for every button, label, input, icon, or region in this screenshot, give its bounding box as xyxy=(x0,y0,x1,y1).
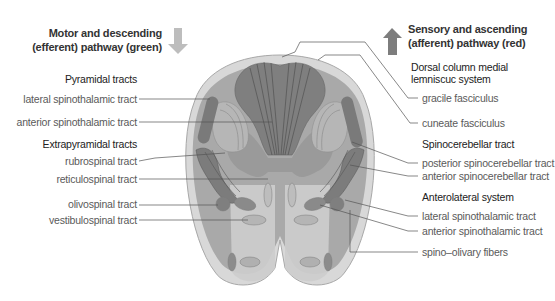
sensory-title-line1: Sensory and ascending xyxy=(408,22,527,36)
label-vestibulospinal: vestibulospinal tract xyxy=(49,214,137,226)
up-arrow-icon xyxy=(383,28,402,55)
label-cuneate-fasciculus: cuneate fasciculus xyxy=(422,117,505,129)
sensory-title-line2: (afferent) pathway (red) xyxy=(408,36,527,50)
extrapyramidal-tracts-heading: Extrapyramidal tracts xyxy=(43,138,137,150)
dorsal-column-heading-line2: lemniscuc system xyxy=(411,73,508,85)
motor-title-line2: (efferent) pathway (green) xyxy=(32,40,162,54)
left-label-lateral-spinothalamic: lateral spinothalamic tract xyxy=(23,93,137,105)
label-spino-olivary-fibers: spino–olivary fibers xyxy=(422,246,508,258)
down-arrow-icon xyxy=(168,28,188,54)
label-rubrospinal: rubrospinal tract xyxy=(65,155,137,167)
motor-title-line1: Motor and descending xyxy=(32,26,162,40)
spinocerebellar-heading: Spinocerebellar tract xyxy=(422,138,514,150)
label-anterior-spinocerebellar: anterior spinocerebellar tract xyxy=(422,170,549,182)
anterolateral-heading: Anterolateral system xyxy=(422,191,514,203)
label-posterior-spinocerebellar: posterior spinocerebellar tract xyxy=(422,157,554,169)
dorsal-column-heading: Dorsal column medial lemniscuc system xyxy=(411,61,508,85)
label-anterior-spinothalamic: anterior spinothalamic tract xyxy=(422,225,542,237)
label-lateral-spinothalamic: lateral spinothalamic tract xyxy=(422,210,536,222)
sensory-pathway-title: Sensory and ascending (afferent) pathway… xyxy=(408,22,527,50)
left-label-anterior-spinothalamic: anterior spinothalamic tract xyxy=(17,116,137,128)
label-olivospinal: olivospinal tract xyxy=(68,198,137,210)
dorsal-column-heading-line1: Dorsal column medial xyxy=(411,61,508,73)
label-reticulospinal: reticulospinal tract xyxy=(56,173,137,185)
label-gracile-fasciculus: gracile fasciculus xyxy=(422,92,498,104)
motor-pathway-title: Motor and descending (efferent) pathway … xyxy=(32,26,162,54)
pyramidal-tracts-heading: Pyramidal tracts xyxy=(65,73,137,85)
